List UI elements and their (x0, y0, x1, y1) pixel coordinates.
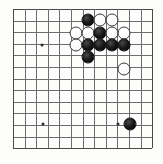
black-stone[interactable] (82, 51, 95, 64)
star-point (42, 123, 45, 126)
grid-line-vertical (152, 9, 153, 148)
grid-line-vertical (13, 9, 14, 148)
grid-line-vertical (141, 9, 142, 148)
go-board[interactable] (0, 0, 163, 164)
grid-line-vertical (59, 9, 60, 148)
black-stone[interactable] (118, 39, 131, 52)
go-diagram (0, 0, 163, 164)
star-point (117, 123, 120, 126)
grid-line-vertical (48, 9, 49, 148)
grid-line-vertical (36, 9, 37, 148)
white-stone[interactable] (118, 63, 131, 76)
black-stone[interactable] (124, 118, 137, 131)
grid-line-vertical (25, 9, 26, 148)
star-point (41, 44, 44, 47)
white-stone[interactable] (106, 14, 119, 27)
